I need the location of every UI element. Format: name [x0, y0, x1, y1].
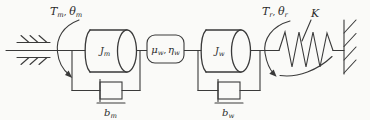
motor-inertia-label: Jm	[98, 45, 110, 58]
wheel-inertia-cylinder	[201, 30, 250, 72]
spring-label-leader	[302, 20, 311, 41]
wheel-inertia-label: Jw	[213, 45, 225, 58]
wheel-damping-label: bw	[222, 107, 234, 120]
motor-damping-label: bm	[104, 107, 117, 120]
damper-icon	[97, 80, 125, 104]
mechanical-schematic-figure: Tm,θm Jm μw,ηw bm Jw bw Tr,θr K	[0, 0, 370, 120]
right-wall-support	[344, 20, 356, 74]
motor-torque-rotation-arrow-icon	[57, 20, 79, 78]
schematic-svg: Tm,θm Jm μw,ηw bm Jw bw Tr,θr K	[0, 0, 370, 120]
output-torque-label: Tr,θr	[262, 5, 289, 19]
spring-stiffness-label: K	[310, 7, 320, 20]
output-torque-rotation-arrow-icon	[265, 21, 332, 77]
motor-torque-label: Tm,θm	[50, 5, 82, 19]
damper-icon	[215, 80, 243, 104]
wheel-damper-branch	[198, 51, 260, 104]
shaft-spring	[279, 20, 333, 67]
motor-inertia-cylinder	[85, 30, 136, 72]
